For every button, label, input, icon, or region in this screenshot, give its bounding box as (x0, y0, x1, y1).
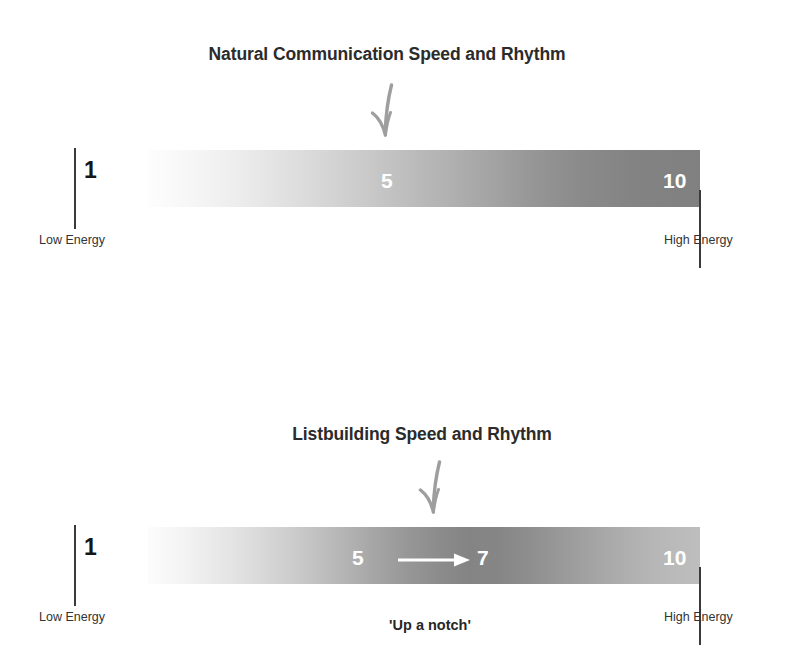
increase-arrow-icon (398, 552, 474, 568)
scale-marker-target-value: 7 (477, 547, 489, 568)
scale-start-tick (74, 148, 76, 229)
scale-end-caption: High Energy (664, 233, 733, 247)
energy-scale-row-natural: 1 5 10 Low Energy High Energy (0, 145, 804, 265)
section-title-listbuilding-text: Listbuilding Speed and Rhythm (292, 424, 552, 444)
scale-start-tick (74, 525, 76, 606)
curved-down-arrow-icon (355, 83, 415, 145)
section-title-natural: Natural Communication Speed and Rhythm (0, 44, 804, 65)
section-title-natural-text: Natural Communication Speed and Rhythm (209, 44, 566, 64)
section-title-listbuilding: Listbuilding Speed and Rhythm (0, 424, 804, 445)
scale-end-tick (699, 190, 701, 268)
scale-start-value: 1 (84, 157, 97, 184)
scale-end-value: 10 (663, 170, 686, 191)
scale-marker-value: 5 (352, 547, 364, 568)
scale-marker-value: 5 (381, 170, 393, 191)
scale-start-caption: Low Energy (39, 233, 105, 247)
energy-gradient-bar: 5 7 10 (148, 527, 700, 584)
curved-down-arrow-icon (403, 460, 463, 522)
scale-end-value: 10 (663, 547, 686, 568)
scale-end-tick (699, 567, 701, 645)
energy-scale-diagram: Natural Communication Speed and Rhythm 1… (0, 0, 804, 660)
up-a-notch-caption-text: 'Up a notch' (389, 617, 471, 633)
up-a-notch-caption: 'Up a notch' (0, 617, 804, 633)
energy-gradient-bar: 5 10 (148, 150, 700, 207)
scale-start-value: 1 (84, 534, 97, 561)
